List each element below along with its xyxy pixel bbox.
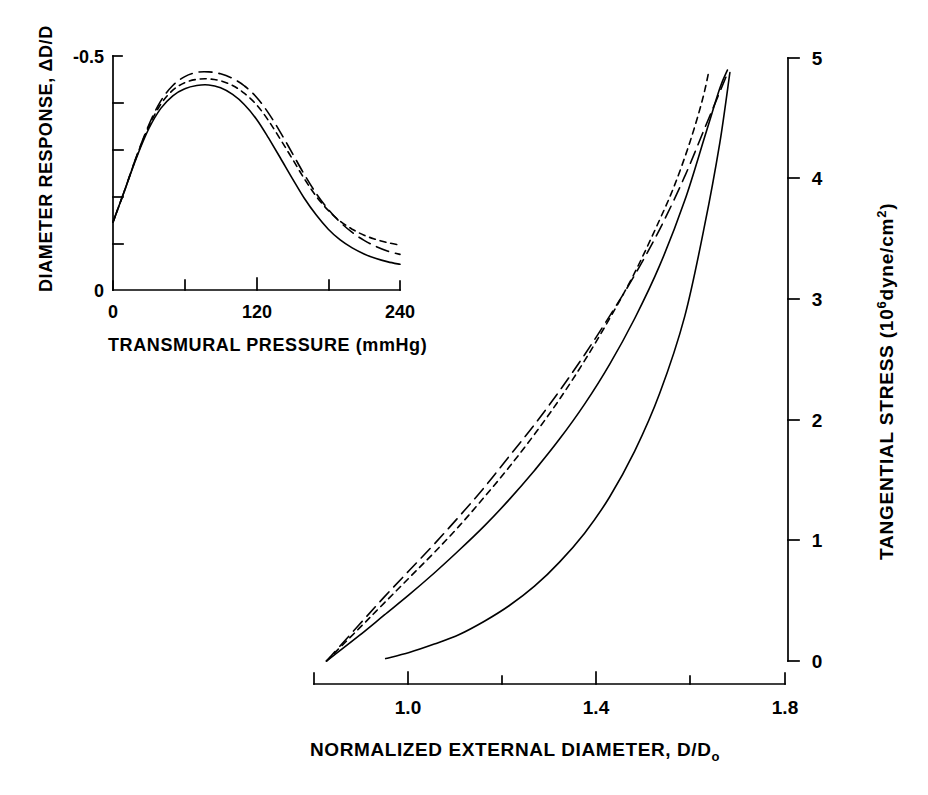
main-x-tick-label-1-0: 1.0: [395, 697, 421, 718]
inset-solid-curve: [113, 85, 400, 264]
main-y-tick-label-0: 0: [812, 651, 823, 672]
main-y-tick-label-2: 2: [812, 410, 823, 431]
main-y-tick-label-3: 3: [812, 289, 823, 310]
inset-x-axis-title-text: TRANSMURAL PRESSURE (mmHg): [108, 335, 427, 355]
inset-y-tick-label-0: 0: [94, 281, 104, 301]
main-x-tick-label-1-8: 1.8: [772, 697, 798, 718]
main-y-tick-label-5: 5: [812, 48, 823, 69]
inset-x-tick-label-0: 0: [108, 302, 118, 322]
inset-x-axis: [113, 278, 400, 290]
inset-y-axis: [113, 56, 123, 290]
main-x-tick-labels: 1.0 1.4 1.8: [395, 697, 798, 718]
inset-x-axis-title: TRANSMURAL PRESSURE (mmHg): [108, 335, 427, 355]
main-y-tick-label-4: 4: [812, 168, 823, 189]
long-dashed-curve: [327, 74, 728, 661]
inset-x-tick-label-240: 240: [385, 302, 415, 322]
main-x-tick-label-1-4: 1.4: [583, 697, 610, 718]
main-y-axis-title-text: TANGENTIAL STRESS (106dyne/cm2): [874, 203, 897, 560]
main-curves: [327, 70, 730, 661]
main-x-axis-title: NORMALIZED EXTERNAL DIAMETER, D/Do: [310, 739, 720, 764]
short-dashed-curve: [327, 71, 709, 661]
main-y-axis-title: TANGENTIAL STRESS (106dyne/cm2): [874, 203, 897, 560]
main-x-axis-title-text: NORMALIZED EXTERNAL DIAMETER, D/Do: [310, 739, 720, 764]
inset-x-tick-label-120: 120: [242, 302, 272, 322]
inset-y-tick-label-minus-0-5: -0.5: [73, 47, 104, 67]
main-x-axis: [314, 672, 785, 684]
solid-curve-upper: [327, 70, 728, 661]
figure-canvas: 1.0 1.4 1.8 5 4 3 2 1 0 NORMALIZED EXTER…: [0, 0, 928, 795]
main-y-tick-labels: 5 4 3 2 1 0: [812, 48, 823, 672]
main-y-axis: [788, 58, 799, 661]
inset-long-dashed-curve: [113, 72, 400, 255]
inset-curves: [113, 72, 400, 265]
inset-y-axis-title: DIAMETER RESPONSE, ΔD/D: [36, 25, 56, 292]
inset-short-dashed-curve: [113, 79, 400, 245]
inset-tick-labels: -0.5 0 0 120 240: [73, 47, 415, 322]
inset-y-axis-title-text: DIAMETER RESPONSE, ΔD/D: [36, 25, 56, 292]
main-y-tick-label-1: 1: [812, 530, 823, 551]
